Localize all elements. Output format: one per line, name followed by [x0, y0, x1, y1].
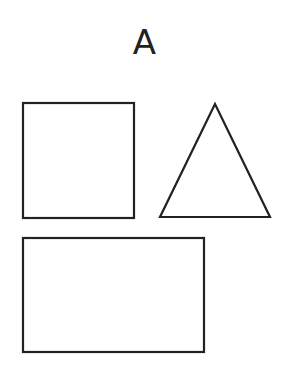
square-shape: [23, 103, 134, 218]
rectangle-shape: [23, 238, 204, 352]
triangle-shape: [160, 104, 270, 217]
shapes-diagram: [0, 0, 289, 373]
